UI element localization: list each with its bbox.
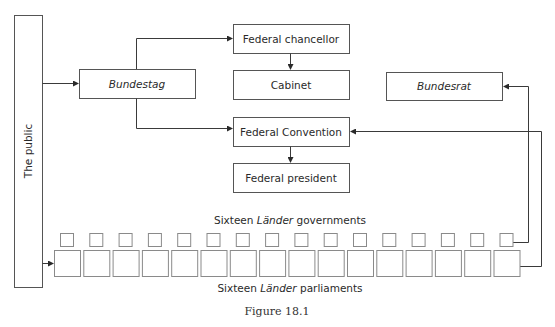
figure-caption: Figure 18.1: [244, 305, 309, 318]
land-government-box: [500, 234, 513, 247]
land-parliament-box: [377, 251, 403, 277]
bundesrat-box: Bundesrat: [387, 73, 503, 101]
federal-president-label: Federal president: [245, 172, 337, 184]
lander-parliaments-label: Sixteen Länder parliaments: [217, 282, 362, 294]
public-label: The public: [22, 124, 34, 180]
lander-governments-row: [61, 234, 514, 247]
land-government-box: [148, 234, 161, 247]
land-government-box: [471, 234, 484, 247]
lander-governments-label: Sixteen Länder governments: [214, 214, 366, 226]
land-parliament-box: [113, 251, 139, 277]
lander-parliaments-row: [55, 251, 521, 277]
land-government-box: [178, 234, 191, 247]
land-parliament-box: [348, 251, 374, 277]
land-government-box: [236, 234, 249, 247]
bundestag-box: Bundestag: [80, 70, 196, 99]
arrow-bundestag-to-chancellor: [137, 39, 233, 70]
land-parliament-box: [465, 251, 491, 277]
federal-president-box: Federal president: [234, 164, 350, 193]
land-parliament-box: [406, 251, 432, 277]
land-parliament-box: [201, 251, 227, 277]
federal-chancellor-box: Federal chancellor: [234, 25, 350, 54]
federal-chancellor-label: Federal chancellor: [243, 33, 340, 45]
land-government-box: [354, 234, 367, 247]
land-parliament-box: [494, 251, 520, 277]
land-government-box: [441, 234, 454, 247]
land-government-box: [266, 234, 279, 247]
land-government-box: [61, 234, 74, 247]
federal-convention-box: Federal Convention: [234, 118, 350, 147]
cabinet-box: Cabinet: [234, 71, 350, 100]
land-government-box: [90, 234, 103, 247]
land-government-box: [207, 234, 220, 247]
arrow-bundestag-to-convention: [137, 99, 233, 129]
land-government-box: [383, 234, 396, 247]
land-parliament-box: [435, 251, 461, 277]
land-parliament-box: [260, 251, 286, 277]
land-government-box: [119, 234, 132, 247]
land-parliament-box: [142, 251, 168, 277]
land-parliament-box: [230, 251, 256, 277]
land-parliament-box: [172, 251, 198, 277]
land-parliament-box: [318, 251, 344, 277]
government-structure-diagram: The public Bundestag Federal chancellor …: [0, 0, 555, 327]
land-parliament-box: [55, 251, 81, 277]
bundesrat-label: Bundesrat: [417, 80, 472, 92]
cabinet-label: Cabinet: [271, 79, 312, 91]
land-parliament-box: [84, 251, 110, 277]
land-government-box: [295, 234, 308, 247]
arrow-governments-to-bundesrat: [504, 87, 529, 243]
public-box: The public: [15, 16, 43, 288]
land-parliament-box: [289, 251, 315, 277]
land-government-box: [412, 234, 425, 247]
bundestag-label: Bundestag: [109, 78, 166, 90]
federal-convention-label: Federal Convention: [240, 126, 342, 138]
land-government-box: [324, 234, 337, 247]
